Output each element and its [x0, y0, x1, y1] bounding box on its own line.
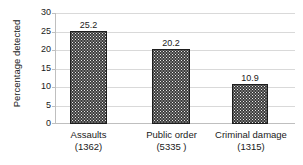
y-tick-label-15: 15	[21, 64, 51, 73]
y-tick-label-10: 10	[21, 82, 51, 91]
bar-criminal-damage[interactable]	[232, 84, 268, 124]
x-category-name-criminal-damage: Criminal damage	[215, 129, 287, 140]
y-tick-mark-20	[52, 50, 55, 51]
y-tick-mark-15	[52, 69, 55, 70]
gridline-30	[55, 13, 295, 14]
y-tick-mark-10	[52, 87, 55, 88]
x-category-count-assaults: (1362)	[41, 141, 136, 153]
x-category-label-criminal-damage: Criminal damage (1315)	[203, 129, 299, 153]
bar-value-criminal-damage: 10.9	[230, 73, 270, 83]
y-tick-label-20: 20	[21, 45, 51, 54]
y-tick-label-0: 0	[21, 119, 51, 128]
y-tick-label-25: 25	[21, 27, 51, 36]
x-category-name-assaults: Assaults	[71, 129, 107, 140]
bar-chart-figure: Percentage detected 0 5 10 15 20 25 30 2…	[0, 0, 303, 165]
y-tick-mark-30	[52, 13, 55, 14]
bar-value-assaults: 25.2	[68, 20, 109, 30]
plot-area: 25.2 20.2 10.9	[55, 13, 295, 124]
y-tick-mark-5	[52, 106, 55, 107]
y-axis-title: Percentage detected	[11, 4, 22, 124]
y-tick-mark-0	[52, 123, 55, 124]
bar-public-order[interactable]	[152, 49, 190, 124]
x-category-label-assaults: Assaults (1362)	[41, 129, 136, 153]
y-tick-label-30: 30	[21, 8, 51, 17]
bar-assaults[interactable]	[70, 31, 107, 124]
y-tick-mark-25	[52, 32, 55, 33]
bar-value-public-order: 20.2	[150, 38, 192, 48]
y-axis-line	[55, 13, 56, 124]
y-tick-label-5: 5	[21, 101, 51, 110]
x-category-count-criminal-damage: (1315)	[203, 141, 299, 153]
x-category-name-public-order: Public order	[146, 129, 197, 140]
